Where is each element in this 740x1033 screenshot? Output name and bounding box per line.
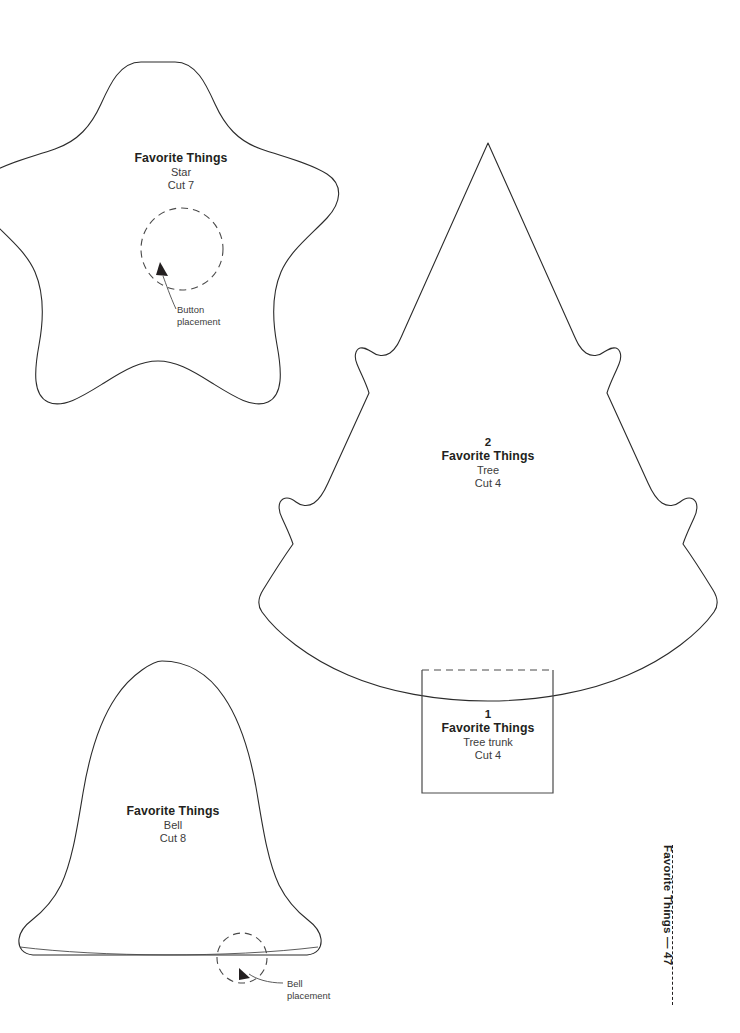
star-label-piece: Star: [86, 166, 276, 179]
tree-label-block: 2 Favorite Things Tree Cut 4: [393, 435, 583, 491]
bell-label-block: Favorite Things Bell Cut 8: [78, 804, 268, 846]
tree-label-cut: Cut 4: [393, 477, 583, 490]
tree-label-title: Favorite Things: [393, 449, 583, 464]
bell-label-title: Favorite Things: [78, 804, 268, 819]
star-label-title: Favorite Things: [86, 151, 276, 166]
bell-placement-leader-line: [249, 974, 283, 983]
tree-trunk-label-block: 1 Favorite Things Tree trunk Cut 4: [393, 707, 583, 763]
bell-placement-leader-arrowhead: [239, 968, 250, 980]
star-button-placement-callout: Button placement: [177, 304, 220, 328]
tree-label-number: 2: [393, 435, 583, 449]
tree-trunk-label-title: Favorite Things: [393, 721, 583, 736]
bell-label-cut: Cut 8: [78, 832, 268, 845]
star-label-cut: Cut 7: [86, 179, 276, 192]
page-footer: Favorite Things — 47: [668, 845, 708, 1005]
tree-trunk-label-cut: Cut 4: [393, 749, 583, 762]
tree-trunk-label-piece: Tree trunk: [393, 736, 583, 749]
tree-label-piece: Tree: [393, 464, 583, 477]
bell-label-piece: Bell: [78, 819, 268, 832]
pattern-sheet: Favorite Things Star Cut 7 Button placem…: [0, 0, 740, 1033]
bell-placement-callout: Bell placement: [287, 978, 330, 1002]
star-outline: [0, 62, 339, 404]
star-button-placement-line2: placement: [177, 316, 220, 328]
bell-placement-line2: placement: [287, 990, 330, 1002]
footer-label: Favorite Things — 47: [652, 845, 674, 1005]
star-button-placement-line1: Button: [177, 304, 220, 316]
star-label-block: Favorite Things Star Cut 7: [86, 151, 276, 193]
bell-placement-line1: Bell: [287, 978, 330, 990]
tree-trunk-label-number: 1: [393, 707, 583, 721]
tree-outline: [259, 143, 718, 701]
